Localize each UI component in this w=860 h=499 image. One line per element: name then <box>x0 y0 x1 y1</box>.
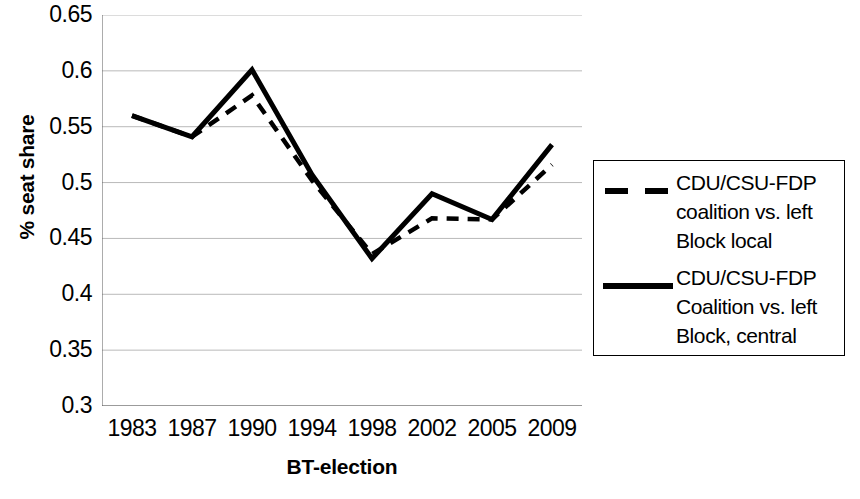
legend-entry[interactable]: CDU/CSU-FDP Coalition vs. left Block, ce… <box>594 263 844 355</box>
y-axis-tick-label: 0.45 <box>26 226 92 249</box>
plot-svg <box>102 15 582 406</box>
y-axis-tick-labels: 0.650.60.550.50.450.40.350.3 <box>26 0 92 420</box>
y-axis-tick-label: 0.35 <box>26 338 92 361</box>
legend-label: CDU/CSU-FDP coalition vs. left Block loc… <box>676 168 842 255</box>
gridlines <box>102 15 582 406</box>
x-axis-tick-label: 2009 <box>517 413 587 443</box>
legend-solid-line-icon <box>603 277 673 287</box>
series-line-1 <box>132 95 552 254</box>
series-line-2 <box>132 70 552 259</box>
y-axis-tick-label: 0.5 <box>26 171 92 194</box>
y-axis-tick-label: 0.4 <box>26 282 92 305</box>
line-chart-figure: % seat share 0.650.60.550.50.450.40.350.… <box>0 0 860 499</box>
legend-dashed-line-icon <box>603 182 673 192</box>
data-series-layer <box>132 70 552 259</box>
plot-area <box>102 15 582 406</box>
axis-lines <box>102 15 582 406</box>
y-axis-tick-label: 0.65 <box>26 3 92 26</box>
y-axis-tick-label: 0.55 <box>26 115 92 138</box>
y-axis-tick-label: 0.3 <box>26 394 92 417</box>
x-axis-title: BT-election <box>102 455 582 479</box>
legend-entry[interactable]: CDU/CSU-FDP coalition vs. left Block loc… <box>594 168 844 260</box>
legend: CDU/CSU-FDP coalition vs. left Block loc… <box>593 160 845 356</box>
y-axis-tick-label: 0.6 <box>26 59 92 82</box>
x-axis-tick-labels: 19831987199019941998200220052009 <box>102 413 582 447</box>
legend-label: CDU/CSU-FDP Coalition vs. left Block, ce… <box>676 263 842 350</box>
